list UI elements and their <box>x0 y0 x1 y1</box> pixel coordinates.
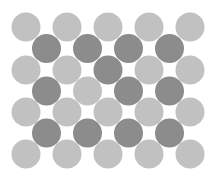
dark-circle <box>94 56 123 85</box>
light-circle <box>73 77 102 106</box>
light-circle <box>53 140 82 169</box>
light-circle <box>176 13 205 42</box>
dark-circle <box>32 119 61 148</box>
dark-circle <box>73 34 102 63</box>
dark-circle <box>32 77 61 106</box>
dark-circle <box>114 77 143 106</box>
light-circle <box>94 140 123 169</box>
light-circle <box>12 56 41 85</box>
light-circle <box>135 56 164 85</box>
light-circle <box>94 98 123 127</box>
dark-circle <box>114 34 143 63</box>
light-circle <box>176 98 205 127</box>
light-circle <box>12 98 41 127</box>
light-circle <box>135 140 164 169</box>
dark-circle <box>73 119 102 148</box>
light-circle <box>135 98 164 127</box>
light-circle <box>12 13 41 42</box>
light-circle <box>176 56 205 85</box>
light-circle <box>53 98 82 127</box>
light-circle <box>53 56 82 85</box>
dark-circle <box>114 119 143 148</box>
light-circle <box>53 13 82 42</box>
dark-circle <box>155 77 184 106</box>
circle-pattern <box>0 0 219 178</box>
dark-circle <box>155 34 184 63</box>
light-circle <box>176 140 205 169</box>
dark-circle <box>32 34 61 63</box>
dark-circle <box>155 119 184 148</box>
light-circle <box>12 140 41 169</box>
light-circle <box>135 13 164 42</box>
light-circle <box>94 13 123 42</box>
